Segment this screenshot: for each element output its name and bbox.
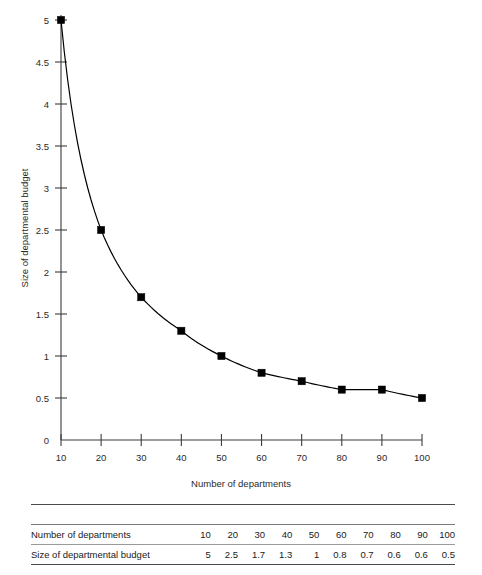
y-tick-label: 2.5 bbox=[36, 225, 49, 236]
x-tick-label: 70 bbox=[296, 452, 307, 463]
x-axis-tick-labels: 102030405060708090100 bbox=[56, 452, 430, 463]
table-cell-value: 0.7 bbox=[346, 545, 373, 565]
data-point-marker bbox=[57, 16, 64, 23]
table-cell-value: 50 bbox=[292, 525, 319, 545]
table-cell-value: 70 bbox=[346, 525, 373, 545]
table-cell-value: 2.5 bbox=[211, 545, 238, 565]
table-row: Number of departments1020304050607080901… bbox=[31, 525, 455, 545]
table-cell-value: 10 bbox=[184, 525, 211, 545]
series-line-budget bbox=[61, 20, 422, 398]
x-tick-label: 10 bbox=[56, 452, 67, 463]
data-table: Number of departments1020304050607080901… bbox=[31, 504, 455, 565]
table-row: Size of departmental budget52.51.71.310.… bbox=[31, 545, 455, 565]
table-row-label: Size of departmental budget bbox=[31, 545, 184, 565]
table-cell-value: 80 bbox=[374, 525, 401, 545]
table-cell-value: 0.6 bbox=[401, 545, 428, 565]
table-cell-value: 60 bbox=[319, 525, 346, 545]
table-cell-value: 1.3 bbox=[265, 545, 292, 565]
table-cell-value: 100 bbox=[428, 525, 455, 545]
y-tick-label: 3.5 bbox=[36, 141, 49, 152]
table-cell-value: 0.5 bbox=[428, 545, 455, 565]
y-tick-label: 0.5 bbox=[36, 393, 49, 404]
table-cell-value: 30 bbox=[238, 525, 265, 545]
x-tick-label: 100 bbox=[414, 452, 430, 463]
chart-region: 00.511.522.533.544.55 102030405060708090… bbox=[0, 0, 482, 500]
data-point-marker bbox=[138, 294, 145, 301]
table-cell-value: 1 bbox=[292, 545, 319, 565]
data-point-marker bbox=[418, 394, 425, 401]
data-table-container: Number of departments1020304050607080901… bbox=[31, 504, 455, 565]
x-tick-label: 40 bbox=[176, 452, 187, 463]
data-point-marker bbox=[378, 386, 385, 393]
table-cell-value: 40 bbox=[265, 525, 292, 545]
table-cell-value: 1.7 bbox=[238, 545, 265, 565]
x-tick-label: 90 bbox=[377, 452, 388, 463]
data-point-marker bbox=[338, 386, 345, 393]
table-top-rule bbox=[31, 505, 455, 525]
y-tick-label: 0 bbox=[44, 435, 49, 446]
x-tick-label: 50 bbox=[216, 452, 227, 463]
series-markers-budget bbox=[57, 16, 425, 401]
y-tick-label: 2 bbox=[44, 267, 49, 278]
table-cell-value: 0.8 bbox=[319, 545, 346, 565]
data-point-marker bbox=[178, 327, 185, 334]
figure: 00.511.522.533.544.55 102030405060708090… bbox=[0, 0, 482, 575]
y-tick-label: 1 bbox=[44, 351, 49, 362]
table-cell-value: 20 bbox=[211, 525, 238, 545]
y-tick-label: 3 bbox=[44, 183, 49, 194]
y-tick-label: 5 bbox=[44, 15, 49, 26]
x-axis-title: Number of departments bbox=[191, 478, 291, 489]
y-axis-title: Size of departmental budget bbox=[19, 168, 30, 287]
x-tick-label: 30 bbox=[136, 452, 147, 463]
y-tick-label: 4.5 bbox=[36, 57, 49, 68]
x-tick-label: 20 bbox=[96, 452, 107, 463]
y-tick-label: 4 bbox=[44, 99, 49, 110]
x-tick-label: 60 bbox=[256, 452, 267, 463]
y-tick-label: 1.5 bbox=[36, 309, 49, 320]
x-tick-label: 80 bbox=[336, 452, 347, 463]
data-point-marker bbox=[258, 369, 265, 376]
table-row-label: Number of departments bbox=[31, 525, 184, 545]
data-point-marker bbox=[298, 378, 305, 385]
table-rule-cell bbox=[31, 505, 455, 525]
y-axis-tick-labels: 00.511.522.533.544.55 bbox=[36, 15, 49, 446]
table-cell-value: 5 bbox=[184, 545, 211, 565]
data-point-marker bbox=[98, 226, 105, 233]
line-chart: 00.511.522.533.544.55 102030405060708090… bbox=[0, 0, 482, 500]
table-cell-value: 0.6 bbox=[374, 545, 401, 565]
data-point-marker bbox=[218, 352, 225, 359]
table-cell-value: 90 bbox=[401, 525, 428, 545]
